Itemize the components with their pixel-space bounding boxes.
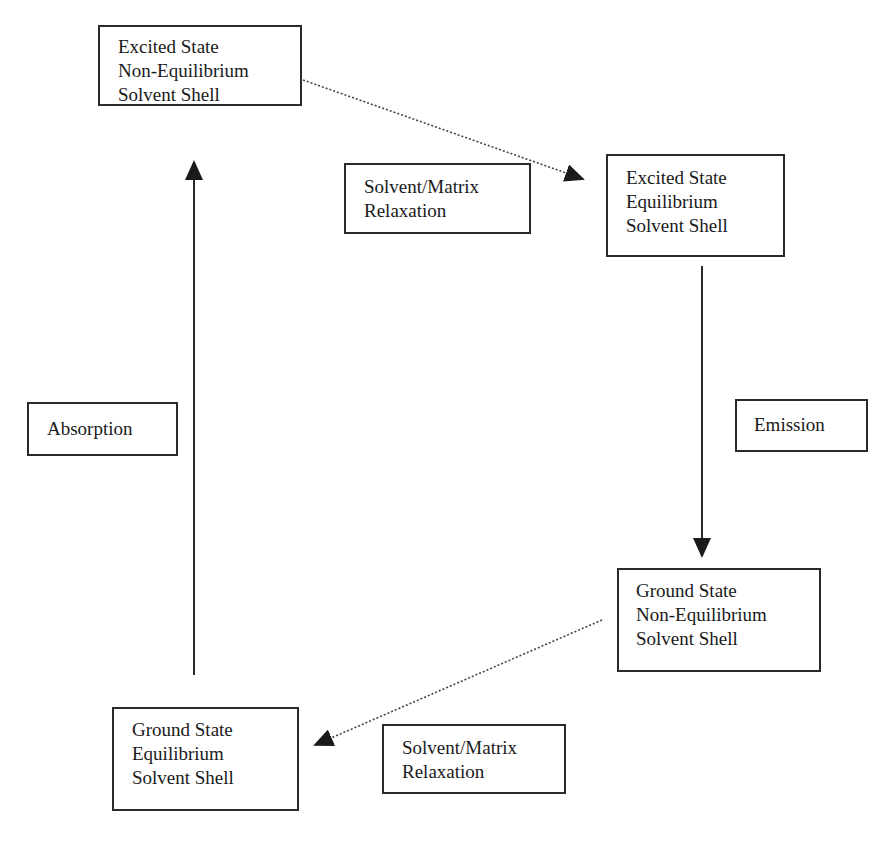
node-excited-equilibrium: Excited State Equilibrium Solvent Shell bbox=[606, 154, 785, 257]
label-line: Relaxation bbox=[402, 760, 564, 784]
node-line: Ground State bbox=[636, 579, 819, 603]
node-line: Solvent Shell bbox=[636, 627, 819, 651]
node-line: Excited State bbox=[626, 166, 783, 190]
node-line: Equilibrium bbox=[626, 190, 783, 214]
label-relaxation-bottom: Solvent/Matrix Relaxation bbox=[382, 724, 566, 794]
node-ground-equilibrium: Ground State Equilibrium Solvent Shell bbox=[112, 707, 299, 811]
node-excited-nonequilibrium: Excited State Non-Equilibrium Solvent Sh… bbox=[98, 25, 302, 106]
label-line: Relaxation bbox=[364, 199, 529, 223]
node-line: Solvent Shell bbox=[626, 214, 783, 238]
node-line: Equilibrium bbox=[132, 742, 297, 766]
node-line: Excited State bbox=[118, 35, 300, 59]
node-ground-nonequilibrium: Ground State Non-Equilibrium Solvent She… bbox=[617, 568, 821, 672]
label-relaxation-top: Solvent/Matrix Relaxation bbox=[344, 163, 531, 234]
node-line: Non-Equilibrium bbox=[118, 59, 300, 83]
label-line: Solvent/Matrix bbox=[364, 175, 529, 199]
node-line: Solvent Shell bbox=[118, 83, 300, 107]
node-line: Ground State bbox=[132, 718, 297, 742]
label-line: Emission bbox=[754, 413, 866, 437]
label-line: Solvent/Matrix bbox=[402, 736, 564, 760]
label-emission: Emission bbox=[735, 399, 868, 452]
label-absorption: Absorption bbox=[27, 402, 178, 456]
node-line: Solvent Shell bbox=[132, 766, 297, 790]
label-line: Absorption bbox=[47, 417, 176, 441]
node-line: Non-Equilibrium bbox=[636, 603, 819, 627]
